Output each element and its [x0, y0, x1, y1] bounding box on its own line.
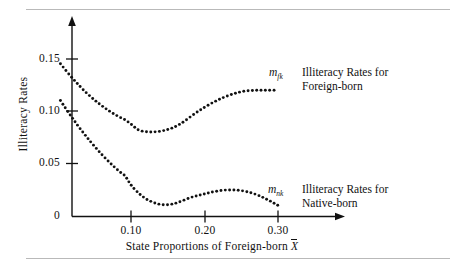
data-point: [59, 99, 62, 102]
data-point: [174, 202, 177, 205]
data-point: [101, 153, 104, 156]
data-point: [74, 120, 77, 123]
data-point: [107, 159, 110, 162]
data-point: [133, 126, 136, 129]
data-point: [69, 113, 72, 116]
data-point: [185, 118, 188, 121]
data-point: [67, 73, 70, 76]
series-symbol-foreign-sub: fk: [277, 72, 282, 81]
data-point: [76, 82, 79, 85]
data-point: [228, 189, 231, 192]
data-point: [112, 112, 115, 115]
data-point: [132, 187, 135, 190]
data-point: [137, 128, 140, 131]
data-point: [115, 114, 118, 117]
series-symbol-native: mnk: [268, 183, 283, 198]
data-point: [195, 195, 198, 198]
data-point: [245, 190, 248, 193]
data-point: [215, 190, 218, 193]
data-point: [187, 197, 190, 200]
data-point: [183, 199, 186, 202]
data-point: [89, 140, 92, 143]
x-tick-label-0.20: 0.20: [181, 224, 229, 236]
data-point: [84, 134, 87, 137]
data-point: [189, 116, 192, 119]
data-point: [70, 76, 73, 79]
data-point: [260, 89, 263, 92]
data-point: [94, 100, 97, 103]
data-point: [230, 93, 233, 96]
data-point: [273, 202, 276, 205]
data-point: [269, 200, 272, 203]
data-point: [261, 196, 264, 199]
data-point: [210, 102, 213, 105]
series-annotation-native-line2: Native-born: [302, 196, 388, 210]
data-point: [91, 97, 94, 100]
data-point: [92, 144, 95, 147]
series-native-born: [59, 99, 279, 207]
data-point: [192, 113, 195, 116]
data-point: [146, 198, 149, 201]
x-axis-arrow-icon: [335, 213, 345, 221]
data-point: [170, 203, 173, 206]
data-point: [178, 123, 181, 126]
data-point: [166, 203, 169, 206]
data-point: [61, 103, 64, 106]
data-point: [119, 171, 122, 174]
series-annotation-foreign: Illiteracy Rates for Foreign-born: [302, 65, 388, 93]
data-point: [110, 163, 113, 166]
data-point: [242, 90, 245, 93]
x-axis-title: State Proportions of Foreign-born X: [72, 240, 352, 252]
data-point: [247, 89, 250, 92]
series-symbol-native-sub: nk: [276, 189, 283, 198]
data-point: [76, 124, 79, 127]
data-point: [224, 189, 227, 192]
y-axis-title: Illiteracy Rates: [17, 54, 29, 174]
x-axis-title-text: State Proportions of Foreign-born: [126, 240, 291, 252]
data-point: [82, 88, 85, 91]
data-point: [174, 125, 177, 128]
data-point: [98, 102, 101, 105]
data-point: [258, 194, 261, 197]
axis-ticks: [66, 59, 278, 223]
data-point: [166, 128, 169, 131]
data-point: [251, 89, 254, 92]
series-symbol-foreign: mfk: [269, 66, 283, 81]
data-point: [211, 191, 214, 194]
data-point: [162, 203, 165, 206]
data-point: [249, 191, 252, 194]
data-point: [119, 116, 122, 119]
data-point: [220, 189, 223, 192]
data-point: [85, 91, 88, 94]
data-point: [191, 196, 194, 199]
y-axis-arrow-icon: [68, 16, 76, 26]
data-point: [149, 131, 152, 134]
data-point: [199, 194, 202, 197]
figure-container: 0.15 0.10 0.05 0 0.10 0.20 0.30 Illitera…: [0, 0, 457, 274]
data-point: [141, 130, 144, 133]
data-point: [79, 85, 82, 88]
data-point: [203, 106, 206, 109]
data-point: [71, 117, 74, 120]
data-point: [130, 184, 133, 187]
data-point: [234, 92, 237, 95]
data-point: [241, 189, 244, 192]
data-point: [182, 121, 185, 124]
data-point: [66, 110, 69, 113]
data-point: [273, 89, 276, 92]
data-point: [218, 98, 221, 101]
data-point: [142, 196, 145, 199]
x-axis-title-symbol: X: [291, 240, 298, 252]
data-point: [105, 107, 108, 110]
data-point: [98, 150, 101, 153]
data-point: [88, 94, 91, 97]
data-point: [145, 130, 148, 133]
data-point: [95, 147, 98, 150]
data-point: [64, 69, 67, 72]
data-point: [101, 105, 104, 108]
data-point: [214, 100, 217, 103]
data-point: [87, 137, 90, 140]
data-point: [79, 127, 82, 130]
data-point: [264, 89, 267, 92]
data-point: [157, 203, 160, 206]
